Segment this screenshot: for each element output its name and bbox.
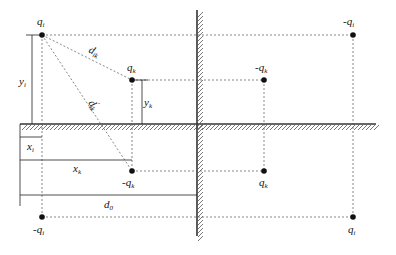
image-charge-neg-qk-top-right	[261, 77, 267, 83]
dimension-labels: yi yk xi xk d0	[18, 75, 153, 212]
label-qk: qk	[127, 61, 137, 75]
distance-labels: dik d′ik	[85, 43, 103, 113]
label-d0: d0	[104, 198, 114, 212]
label-qi-bottom-right: qi	[348, 223, 356, 237]
image-charge-qk-bottom-right	[261, 168, 267, 174]
label-xk: xk	[72, 162, 82, 176]
label-yi: yi	[18, 75, 26, 89]
charge-qk	[129, 77, 135, 83]
dimension-lines	[20, 35, 197, 206]
distance-line-dik	[42, 35, 132, 80]
image-charge-neg-qi-bottom-left	[39, 214, 45, 220]
label-xi: xi	[26, 140, 34, 154]
label-neg-qk-top-right: -qk	[255, 61, 268, 75]
image-charge-neg-qk-bottom-left	[129, 168, 135, 174]
label-qi: qi	[37, 15, 45, 29]
label-qk-bottom-right: qk	[259, 176, 269, 190]
image-charge-qi-bottom-right	[350, 214, 356, 220]
label-neg-qi-bottom-left: -qi	[33, 223, 44, 237]
image-charge-neg-qi-top-right	[350, 32, 356, 38]
label-neg-qk-bottom-left: -qk	[122, 176, 135, 190]
charge-qi	[39, 32, 45, 38]
label-yk: yk	[143, 96, 153, 110]
image-charge-diagram: qi qk -qi -qk -qk qk -qi qi dik d′ik yi …	[0, 0, 396, 255]
label-dik-prime: d′ik	[85, 97, 103, 114]
label-neg-qi-top-right: -qi	[343, 15, 354, 29]
